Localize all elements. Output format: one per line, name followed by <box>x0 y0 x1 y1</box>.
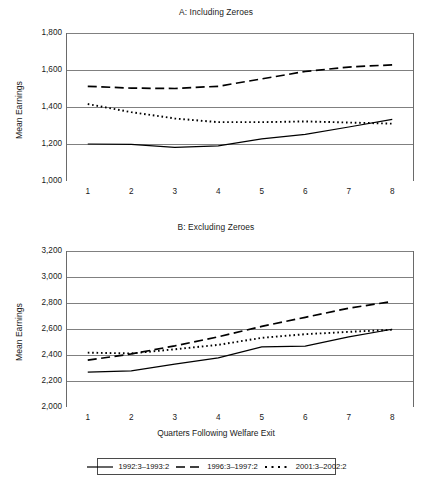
dashed-line-swatch <box>175 463 203 471</box>
chart-a-title: A: Including Zeroes <box>0 7 432 17</box>
y-tick-label: 2,000 <box>26 402 62 411</box>
y-tick-label: 1,800 <box>26 28 62 37</box>
x-tick-label: 6 <box>293 187 317 196</box>
legend-entry: 1992:3–1993:2 <box>86 462 169 471</box>
y-tick-label: 1,000 <box>26 176 62 185</box>
series-line-dashed <box>88 65 393 89</box>
y-tick-label: 3,000 <box>26 272 62 281</box>
x-tick-label: 8 <box>380 413 404 422</box>
chart-b-plot-area <box>66 251 414 407</box>
chart-panel-a: A: Including Zeroes Mean Earnings 1,0001… <box>0 0 432 212</box>
y-tick-label: 2,400 <box>26 350 62 359</box>
x-tick-label: 4 <box>206 413 230 422</box>
y-tick-label: 1,400 <box>26 102 62 111</box>
y-tick-label: 2,200 <box>26 376 62 385</box>
x-tick-label: 3 <box>163 413 187 422</box>
y-tick-label: 3,200 <box>26 246 62 255</box>
chart-legend: 1992:3–1993:21996:3–1997:22001:3–2002:2 <box>97 458 336 475</box>
x-tick-label: 1 <box>76 187 100 196</box>
chart-panel-b: B: Excluding Zeroes Mean Earnings 2,0002… <box>0 214 432 436</box>
x-tick-label: 6 <box>293 413 317 422</box>
y-tick-label: 2,800 <box>26 298 62 307</box>
legend-label: 1996:3–1997:2 <box>207 462 258 471</box>
chart-a-plot-area <box>66 33 414 181</box>
figure-x-axis-title: Quarters Following Welfare Exit <box>0 428 432 438</box>
y-tick-label: 2,600 <box>26 324 62 333</box>
legend-entry: 2001:3–2002:2 <box>264 462 347 471</box>
series-line-solid <box>88 119 393 147</box>
legend-label: 2001:3–2002:2 <box>296 462 347 471</box>
y-tick-label: 1,200 <box>26 139 62 148</box>
x-tick-label: 7 <box>337 187 361 196</box>
x-tick-label: 2 <box>119 187 143 196</box>
x-tick-label: 2 <box>119 413 143 422</box>
chart-b-y-axis-label: Mean Earnings <box>14 303 24 361</box>
x-tick-label: 8 <box>380 187 404 196</box>
dotted-line-swatch <box>264 463 292 471</box>
x-tick-label: 5 <box>250 187 274 196</box>
legend-entry: 1996:3–1997:2 <box>175 462 258 471</box>
x-tick-label: 5 <box>250 413 274 422</box>
y-tick-label: 1,600 <box>26 65 62 74</box>
x-tick-label: 4 <box>206 187 230 196</box>
series-line-solid <box>88 329 393 372</box>
x-tick-label: 7 <box>337 413 361 422</box>
chart-a-y-axis-label: Mean Earnings <box>14 81 24 139</box>
chart-b-title: B: Excluding Zeroes <box>0 222 432 232</box>
x-tick-label: 3 <box>163 187 187 196</box>
series-line-dotted <box>88 330 393 354</box>
solid-line-swatch <box>86 463 114 471</box>
legend-label: 1992:3–1993:2 <box>118 462 169 471</box>
chart-b-svg <box>66 251 414 407</box>
x-tick-label: 1 <box>76 413 100 422</box>
chart-a-svg <box>66 33 414 181</box>
series-line-dashed <box>88 301 393 360</box>
